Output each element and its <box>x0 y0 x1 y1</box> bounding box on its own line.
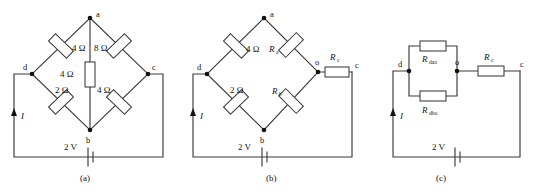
node-label-b: b <box>86 135 90 145</box>
node-label-d: d <box>23 62 28 72</box>
node-d-dot <box>30 72 35 77</box>
node-label-o-b: o <box>315 57 319 67</box>
resistor-rc-b-label: R <box>329 52 336 62</box>
resistor-ab-a-label: 4 Ω <box>60 69 74 79</box>
wire-outer-loop-b <box>193 72 352 157</box>
node-label-o-c: o <box>455 57 459 67</box>
panel-c: R dao R dbo R c c d o I 2 V (c) <box>390 41 524 183</box>
node-a-dot <box>88 16 93 21</box>
node-label-c-c: c <box>520 59 524 69</box>
resistor-rdao-c <box>420 41 446 51</box>
resistor-db-b-label: 2 Ω <box>230 85 244 95</box>
resistor-da-a-label: 4 Ω <box>72 43 86 53</box>
node-label-d-b: d <box>197 62 202 72</box>
caption-b: (b) <box>266 173 277 183</box>
resistor-da-b-label: 4 Ω <box>246 44 260 54</box>
resistor-rc-c-sub: c <box>491 57 494 63</box>
resistor-rdbo-c-label: R <box>421 105 428 115</box>
node-label-d-c: d <box>398 59 403 69</box>
node-d-dot-c <box>407 69 412 74</box>
resistor-db-a-label: 2 Ω <box>55 85 69 95</box>
panel-a: 4 Ω 8 Ω 4 Ω 2 Ω 4 Ω a b c d I <box>11 9 163 183</box>
resistor-rdbo-c <box>420 91 446 101</box>
current-label: I <box>20 111 25 121</box>
caption-c: (c) <box>436 173 446 183</box>
node-label-c-b: c <box>355 60 359 70</box>
node-b-dot <box>88 128 93 133</box>
source-label-c: 2 V <box>432 142 446 152</box>
current-arrow-icon-b <box>190 108 196 116</box>
node-label-c: c <box>152 62 156 72</box>
node-b-dot-b <box>262 128 267 133</box>
source-label-a: 2 V <box>64 142 78 152</box>
resistor-rb-b-sub: b <box>279 91 282 97</box>
node-o-dot-b <box>316 70 321 75</box>
resistor-rc-b-sub: c <box>337 57 340 63</box>
resistor-rdbo-c-sub: dbo <box>429 110 438 116</box>
node-a-dot-b <box>262 16 267 21</box>
node-label-b-b: b <box>260 135 264 145</box>
current-label-b: I <box>199 111 204 121</box>
panel-b: 4 Ω R a 2 Ω R b R c a b c d o <box>190 9 359 183</box>
resistor-rdao-c-label: R <box>421 54 428 64</box>
resistor-ab-a <box>85 62 95 87</box>
node-label-a: a <box>96 9 100 19</box>
source-label-b: 2 V <box>238 142 252 152</box>
resistor-rc-b <box>325 67 349 77</box>
node-label-a-b: a <box>270 9 274 19</box>
node-o-dot-c <box>455 69 460 74</box>
node-d-dot-b <box>205 72 210 77</box>
resistor-ra-b-label: R <box>268 44 275 54</box>
node-c-dot <box>146 72 151 77</box>
resistor-rc-c-label: R <box>483 52 490 62</box>
resistor-rc-c <box>478 66 504 76</box>
resistor-ac-a-label: 8 Ω <box>94 43 108 53</box>
current-arrow-icon-c <box>390 108 396 116</box>
current-arrow-icon <box>11 108 17 116</box>
resistor-rb-b-label: R <box>271 86 278 96</box>
resistor-rdao-c-sub: dao <box>429 59 437 65</box>
current-label-c: I <box>399 111 404 121</box>
caption-a: (a) <box>80 173 90 183</box>
resistor-bc-a-label: 4 Ω <box>97 85 111 95</box>
circuit-figure: 4 Ω 8 Ω 4 Ω 2 Ω 4 Ω a b c d I <box>0 0 533 194</box>
